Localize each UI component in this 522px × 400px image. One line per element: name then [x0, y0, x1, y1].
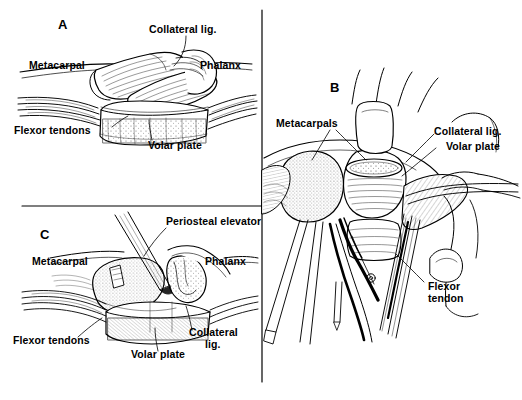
- label-collateral-ligament-c-line2: lig.: [205, 339, 221, 351]
- leader-periosteal-c: [144, 228, 166, 256]
- leader-collateral-b: [406, 134, 434, 162]
- panel-b-artwork: [262, 68, 520, 344]
- label-collateral-ligament-a: Collateral lig.: [149, 24, 216, 36]
- leader-flexor-b: [396, 254, 424, 282]
- figure-canvas: A B C Collateral lig. Metacarpal Phalanx…: [0, 0, 522, 400]
- label-collateral-ligament-b: Collateral lig.: [434, 126, 501, 138]
- label-volar-plate-a: Volar plate: [148, 140, 202, 152]
- label-phalanx-a: Phalanx: [200, 60, 241, 72]
- label-volar-plate-c: Volar plate: [131, 349, 185, 361]
- label-phalanx-c: Phalanx: [205, 256, 246, 268]
- leader-volar-b: [402, 148, 436, 176]
- label-volar-plate-b: Volar plate: [446, 141, 500, 153]
- panel-letter-b: B: [330, 80, 339, 95]
- label-flexor-tendons-a: Flexor tendons: [14, 125, 91, 137]
- label-metacarpal-c: Metacarpal: [32, 256, 88, 268]
- label-flexor-tendons-c: Flexor tendons: [13, 335, 90, 347]
- label-flexor-tendon-b-line2: tendon: [428, 293, 464, 305]
- panel-letter-c: C: [40, 227, 49, 242]
- label-periosteal-elevator-c: Periosteal elevator: [166, 216, 261, 228]
- label-metacarpal-a: Metacarpal: [29, 60, 85, 72]
- label-metacarpals-b: Metacarpals: [276, 118, 338, 130]
- label-collateral-ligament-c-line1: Collateral: [189, 327, 238, 339]
- panel-letter-a: A: [58, 17, 67, 32]
- label-flexor-tendon-b-line1: Flexor: [428, 281, 460, 293]
